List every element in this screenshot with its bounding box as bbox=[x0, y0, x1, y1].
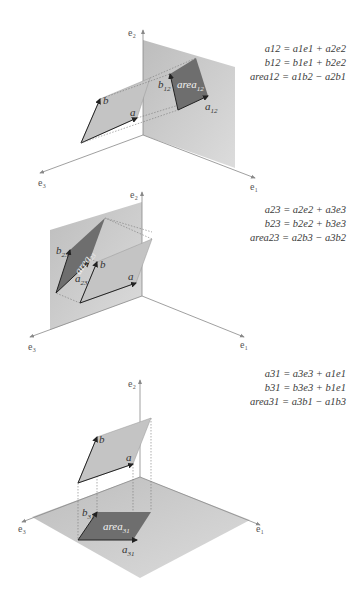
formula-area31: area31 = a3b1 − a1b3 bbox=[250, 395, 346, 409]
formula-a31: a31 = a3e3 + a1e1 bbox=[250, 367, 346, 381]
e3-label: e₃ bbox=[38, 177, 46, 188]
e2-label: e₂ bbox=[128, 27, 136, 38]
panel-e2e3: e₂ e₁ e₃ b23 a23 b a area23 bbox=[28, 189, 248, 352]
e3-label: e₃ bbox=[18, 523, 26, 534]
label-a: a bbox=[130, 106, 136, 118]
formulas-e1e2: a12 = a1e1 + a2e2 b12 = b1e1 + b2e2 area… bbox=[250, 42, 346, 84]
formulas-e2e3: a23 = a2e2 + a3e3 b23 = b2e2 + b3e3 area… bbox=[250, 203, 346, 245]
formulas-e3e1: a31 = a3e3 + a1e1 b31 = b3e3 + b1e1 area… bbox=[250, 367, 346, 409]
e1-label: e₁ bbox=[256, 523, 264, 534]
formula-area23: area23 = a2b3 − a3b2 bbox=[250, 231, 346, 245]
label-a: a bbox=[126, 451, 132, 463]
label-b: b bbox=[103, 94, 109, 106]
formula-b23: b23 = b2e2 + b3e3 bbox=[250, 217, 346, 231]
formula-b31: b31 = b3e3 + b1e1 bbox=[250, 381, 346, 395]
formula-area12: area12 = a1b2 − a2b1 bbox=[250, 70, 346, 84]
formula-a23: a23 = a2e2 + a3e3 bbox=[250, 203, 346, 217]
e3-axis bbox=[40, 135, 143, 173]
formula-b12: b12 = b1e1 + b2e2 bbox=[250, 56, 346, 70]
label-b: b bbox=[100, 258, 106, 270]
panel-e3e1: e₂ e₁ e₃ b a b31 a31 area31 bbox=[18, 378, 264, 578]
e1-label: e₁ bbox=[240, 339, 248, 350]
e1-label: e₁ bbox=[250, 181, 258, 192]
label-a: a bbox=[128, 270, 134, 282]
label-b: b bbox=[99, 433, 105, 445]
e3-label: e₃ bbox=[28, 341, 36, 352]
ab-parallelogram bbox=[81, 78, 150, 143]
e1-axis bbox=[142, 296, 244, 337]
formula-a12: a12 = a1e1 + a2e2 bbox=[250, 42, 346, 56]
diagram-canvas: e₂ e₁ e₃ b a b12 a12 area12 e₂ e₁ e₃ bbox=[0, 0, 354, 609]
e2-label: e₂ bbox=[128, 378, 136, 389]
panel-e1e2: e₂ e₁ e₃ b a b12 a12 area12 bbox=[38, 27, 258, 192]
e2-label: e₂ bbox=[130, 189, 138, 200]
